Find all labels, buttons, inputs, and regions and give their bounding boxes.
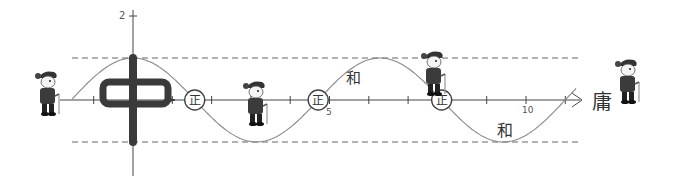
zheng-circle-icon: 正 xyxy=(185,90,205,110)
he-character-upper: 和 xyxy=(346,66,361,87)
figure-far-right-icon xyxy=(615,60,639,105)
svg-text:正: 正 xyxy=(312,94,324,108)
svg-text:正: 正 xyxy=(189,94,201,108)
figure-trough-icon xyxy=(243,82,267,127)
cosine-diagram: 正正正 2 5 10 和 和 庸 xyxy=(0,0,674,184)
figure-left-icon xyxy=(35,72,59,117)
y-tick-label-2: 2 xyxy=(119,10,125,21)
x-tick-label-10: 10 xyxy=(522,105,533,115)
x-tick-label-5: 5 xyxy=(326,107,332,117)
plot-canvas: 正正正 xyxy=(0,0,674,184)
he-character-lower: 和 xyxy=(497,117,513,141)
figures xyxy=(35,52,639,127)
yong-character: 庸 xyxy=(592,86,612,115)
